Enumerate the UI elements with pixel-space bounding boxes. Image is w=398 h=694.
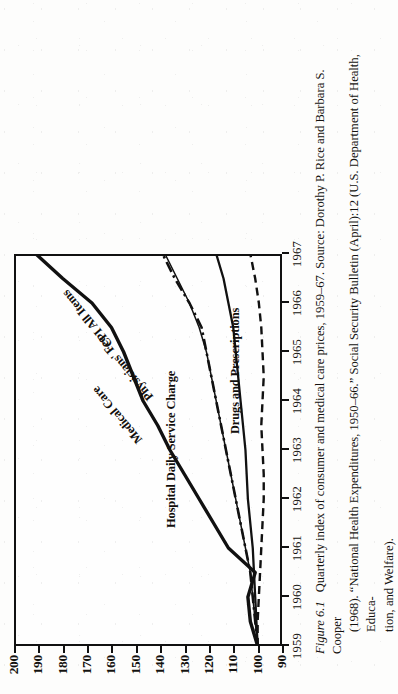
x-tick-mark [282, 301, 289, 303]
x-tick-label: 1960 [290, 584, 305, 610]
y-tick-mark [87, 646, 89, 653]
x-tick-label: 1959 [290, 633, 305, 659]
figure-number: Figure 6.1 [313, 601, 327, 654]
y-tick-mark [160, 646, 162, 653]
x-tick-mark [282, 252, 289, 254]
x-tick-label: 1966 [290, 290, 305, 316]
x-tick-mark [282, 399, 289, 401]
x-tick-mark [282, 350, 289, 352]
y-tick-label: 90 [274, 655, 290, 668]
caption-line-3: tion, and Welfare). [381, 42, 398, 654]
y-tick-label: 200 [6, 655, 22, 674]
y-tick-mark [258, 646, 260, 653]
y-tick-mark [14, 646, 16, 653]
x-tick-label: 1967 [290, 241, 305, 267]
y-tick-mark [136, 646, 138, 653]
y-tick-mark [111, 646, 113, 653]
x-tick-label: 1961 [290, 535, 305, 561]
y-tick-label: 160 [103, 655, 119, 674]
x-tick-label: 1962 [290, 486, 305, 512]
y-tick-mark [63, 646, 65, 653]
x-tick-label: 1963 [290, 437, 305, 463]
y-tick-mark [282, 646, 284, 653]
y-tick-label: 100 [250, 655, 266, 674]
x-tick-mark [282, 546, 289, 548]
figure-caption: Figure 6.1Quarterly index of consumer an… [312, 42, 398, 654]
y-tick-label: 120 [201, 655, 217, 674]
y-tick-mark [209, 646, 211, 653]
x-tick-mark [282, 448, 289, 450]
x-tick-label: 1965 [290, 339, 305, 365]
y-tick-label: 170 [79, 655, 95, 674]
series-label-hospital-daily-service-charge: Hospital Daily Service Charge [164, 371, 179, 528]
figure-chart: 20019018017016015014013012011010090 1959… [14, 254, 282, 646]
x-tick-mark [282, 595, 289, 597]
y-tick-mark [38, 646, 40, 653]
y-tick-label: 180 [55, 655, 71, 674]
series-label-drugs-and-prescriptions: Drugs and Prescriptions [228, 308, 243, 434]
x-tick-mark [282, 644, 289, 646]
y-tick-mark [233, 646, 235, 653]
y-tick-label: 130 [177, 655, 193, 674]
y-tick-mark [185, 646, 187, 653]
y-tick-label: 190 [30, 655, 46, 674]
y-tick-label: 140 [152, 655, 168, 674]
x-tick-label: 1964 [290, 388, 305, 414]
caption-line-2: (1968). “National Health Expenditures, 1… [346, 42, 380, 654]
series-line-hospital-daily-service-charge [36, 254, 258, 646]
caption-line-1: Quarterly index of consumer and medical … [313, 69, 344, 654]
y-tick-label: 110 [225, 655, 241, 674]
x-tick-mark [282, 497, 289, 499]
y-tick-label: 150 [128, 655, 144, 674]
